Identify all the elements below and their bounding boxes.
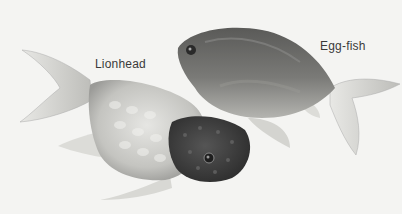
eggfish-body <box>178 28 335 118</box>
eggfish-label: Egg-fish <box>320 39 366 53</box>
lionhead-label: Lionhead <box>95 57 146 71</box>
lionhead-head <box>169 116 251 182</box>
lionhead-tail <box>20 50 92 122</box>
eggfish-anal-fin <box>248 118 290 148</box>
illustration: Lionhead Egg-fish <box>0 0 402 214</box>
eggfish-tail <box>330 79 400 155</box>
goldfish-illustration <box>0 0 402 214</box>
